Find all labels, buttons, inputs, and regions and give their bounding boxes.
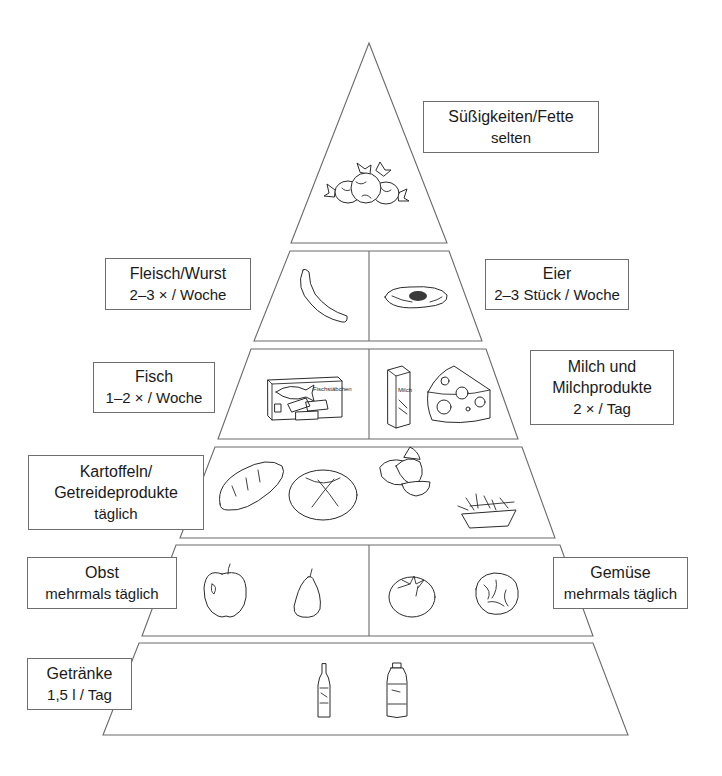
label-fruit: Obst mehrmals täglich xyxy=(27,557,177,609)
category-label: Fleisch/Wurst xyxy=(130,264,227,285)
baguette-icon xyxy=(219,462,283,510)
svg-text:Fischstäbchen: Fischstäbchen xyxy=(313,386,352,392)
fried-egg-icon xyxy=(385,287,447,308)
frequency-label: 1,5 l / Tag xyxy=(47,685,112,705)
sausage-icon xyxy=(300,269,347,322)
label-meat: Fleisch/Wurst 2–3 × / Woche xyxy=(105,258,251,310)
candy-icon xyxy=(324,162,409,204)
frequency-label: 1–2 × / Woche xyxy=(106,388,203,408)
frequency-label: selten xyxy=(491,128,531,148)
category-label: Obst xyxy=(85,563,119,584)
frequency-label: 2–3 × / Woche xyxy=(130,285,227,305)
apple-icon xyxy=(204,564,246,617)
category-label-line-1: Kartoffeln/ xyxy=(80,462,153,483)
category-label: Gemüse xyxy=(590,563,650,584)
juice-bottle-icon xyxy=(318,664,330,717)
svg-text:Milch: Milch xyxy=(398,387,412,393)
fish-fingers-box-icon: Fischstäbchen xyxy=(268,377,352,420)
category-label-line-2: Getreideprodukte xyxy=(54,483,178,504)
tier-fish-dairy: Fischstäbchen Milch xyxy=(218,349,518,439)
label-eggs: Eier 2–3 Stück / Woche xyxy=(485,259,629,310)
tier-potatoes-grains xyxy=(180,447,555,538)
tomato-icon xyxy=(389,576,435,617)
frequency-label: 2 × / Tag xyxy=(573,399,631,419)
frequency-label: täglich xyxy=(94,504,137,524)
milk-carton-icon: Milch xyxy=(388,366,412,428)
cheese-icon xyxy=(428,366,491,423)
category-label: Getränke xyxy=(47,664,113,685)
category-label-line-2: Milchprodukte xyxy=(552,378,652,399)
category-label: Eier xyxy=(543,264,571,285)
tier-fruit-vegetables xyxy=(142,545,593,636)
water-bottle-icon xyxy=(387,663,407,718)
round-bread-icon xyxy=(289,470,357,520)
category-label-line-1: Milch und xyxy=(568,357,636,378)
pear-icon xyxy=(294,569,320,617)
label-drinks: Getränke 1,5 l / Tag xyxy=(27,658,132,710)
label-vegetables: Gemüse mehrmals täglich xyxy=(553,557,688,609)
frequency-label: mehrmals täglich xyxy=(45,584,158,604)
fries-tray-icon xyxy=(458,494,516,528)
frequency-label: mehrmals täglich xyxy=(564,584,677,604)
category-label: Süßigkeiten/Fette xyxy=(448,107,573,128)
label-potatoes-grains: Kartoffeln/ Getreideprodukte täglich xyxy=(28,455,204,530)
lettuce-icon xyxy=(476,573,519,614)
tier-drinks xyxy=(103,643,628,735)
label-dairy: Milch und Milchprodukte 2 × / Tag xyxy=(530,350,674,425)
potato-wedges-icon xyxy=(380,447,430,496)
tier-meat-eggs xyxy=(254,251,482,341)
label-fish: Fisch 1–2 × / Woche xyxy=(93,362,215,413)
label-sweets-fats: Süßigkeiten/Fette selten xyxy=(423,101,599,153)
category-label: Fisch xyxy=(135,367,173,388)
frequency-label: 2–3 Stück / Woche xyxy=(494,285,620,305)
